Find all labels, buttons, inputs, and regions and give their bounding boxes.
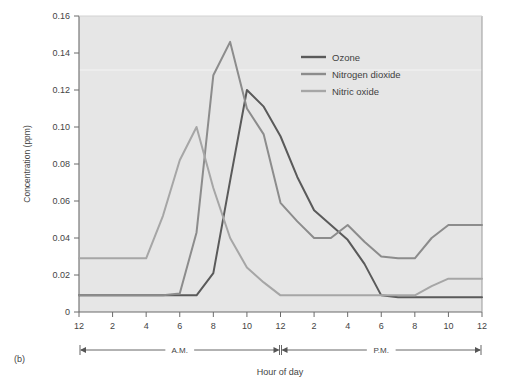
x-tick-label: 12	[275, 321, 285, 331]
x-tick-label: 4	[345, 321, 350, 331]
x-tick-label: 6	[177, 321, 182, 331]
y-tick-label: 0.08	[52, 159, 70, 169]
x-axis-title: Hour of day	[257, 367, 304, 377]
x-tick-label: 2	[312, 321, 317, 331]
x-tick-label: 10	[242, 321, 252, 331]
x-tick-label: 4	[144, 321, 149, 331]
pollution-concentration-chart: 00.020.040.060.080.100.120.140.16 122468…	[0, 0, 508, 388]
y-tick-label: 0.10	[52, 122, 70, 132]
legend-label: Nitrogen dioxide	[332, 69, 401, 80]
y-tick-label: 0.06	[52, 196, 70, 206]
axis-span-label: P.M.	[374, 346, 389, 355]
legend-label: Ozone	[332, 52, 360, 63]
x-tick-label: 2	[110, 321, 115, 331]
x-tick-label: 8	[211, 321, 216, 331]
y-tick-label: 0.12	[52, 85, 70, 95]
y-tick-label: 0.04	[52, 233, 70, 243]
x-tick-label: 8	[412, 321, 417, 331]
y-axis-title: Concentration (ppm)	[22, 125, 32, 203]
legend-label: Nitric oxide	[332, 86, 379, 97]
figure-caption: (b)	[14, 354, 25, 364]
x-tick-label: 6	[379, 321, 384, 331]
y-tick-label: 0.02	[52, 270, 70, 280]
x-tick-label: 12	[477, 321, 487, 331]
y-tick-label: 0.16	[52, 11, 70, 21]
y-tick-label: 0	[65, 307, 70, 317]
figure-container: 00.020.040.060.080.100.120.140.16 122468…	[0, 0, 508, 388]
axis-span-label: A.M.	[172, 346, 188, 355]
x-tick-label: 12	[74, 321, 84, 331]
x-tick-label: 10	[443, 321, 453, 331]
y-axis-tick-labels: 00.020.040.060.080.100.120.140.16	[52, 11, 70, 317]
plot-area-background	[79, 16, 482, 312]
y-tick-label: 0.14	[52, 48, 70, 58]
